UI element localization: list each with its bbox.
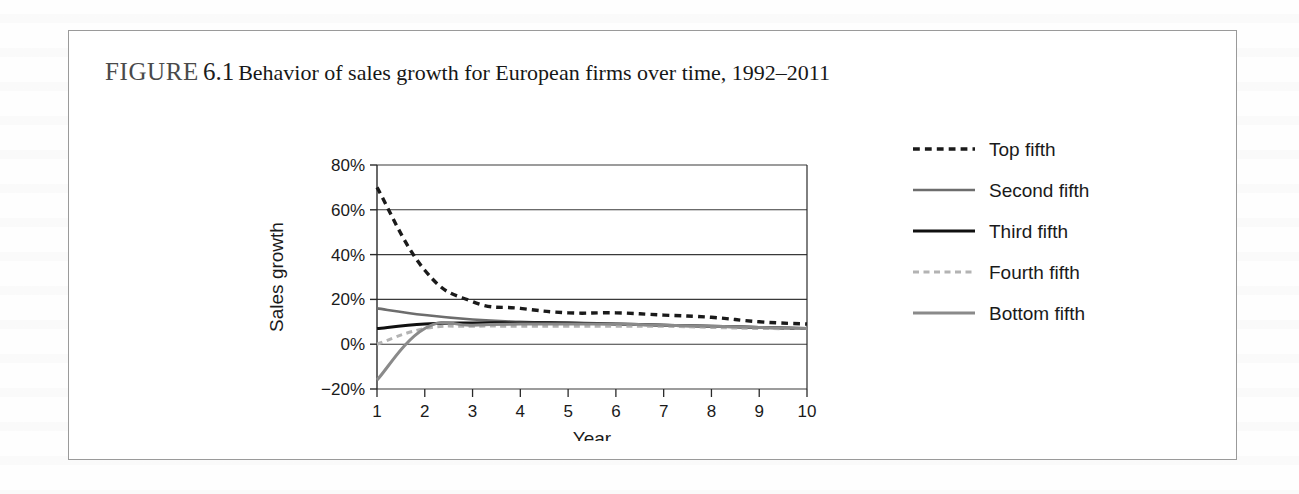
x-axis-title: Year [573,428,612,441]
legend-label-4: Bottom fifth [989,303,1085,324]
x-axis-tick-labels: 12345678910 [372,402,816,421]
legend-label-0: Top fifth [989,139,1056,160]
figure-label: FIGURE [105,58,199,85]
x-tick-label-9: 10 [798,402,817,421]
series-line-3 [377,326,807,344]
x-tick-label-2: 3 [468,402,477,421]
series-line-0 [377,187,807,324]
legend-label-2: Third fifth [989,221,1068,242]
x-tick-label-4: 5 [563,402,572,421]
y-tick-label-0: 80% [331,156,365,175]
figure-page: FIGURE 6.1 Behavior of sales growth for … [0,0,1299,494]
legend-label-1: Second fifth [989,180,1089,201]
figure-caption: Behavior of sales growth for European fi… [238,60,830,85]
y-tick-label-3: 20% [331,290,365,309]
y-tick-label-4: 0% [340,335,365,354]
x-tick-label-7: 8 [707,402,716,421]
x-tick-label-8: 9 [754,402,763,421]
x-tick-label-5: 6 [611,402,620,421]
x-tick-label-0: 1 [372,402,381,421]
y-tick-label-2: 40% [331,246,365,265]
y-axis-title: Sales growth [266,222,287,332]
chart-legend: Top fifthSecond fifthThird fifthFourth f… [913,139,1089,324]
y-tick-label-1: 60% [331,201,365,220]
grid-lines [377,165,807,389]
y-tick-label-5: −20% [321,380,365,399]
figure-number: 6.1 [203,58,234,85]
data-series-lines [377,187,807,380]
legend-label-3: Fourth fifth [989,262,1080,283]
chart-container: 80%60%40%20%0%−20% 12345678910 Top fifth… [249,121,1189,441]
series-line-4 [377,322,807,380]
x-tick-label-3: 4 [516,402,525,421]
figure-title: FIGURE 6.1 Behavior of sales growth for … [105,58,830,86]
x-tick-label-6: 7 [659,402,668,421]
line-chart: 80%60%40%20%0%−20% 12345678910 Top fifth… [249,121,1189,441]
figure-frame: FIGURE 6.1 Behavior of sales growth for … [68,30,1237,460]
x-tick-label-1: 2 [420,402,429,421]
y-axis-tick-labels: 80%60%40%20%0%−20% [321,156,365,399]
